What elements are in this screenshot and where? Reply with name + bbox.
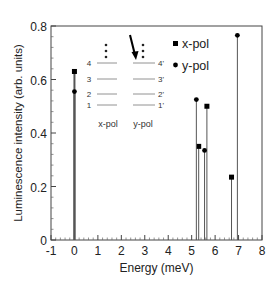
x-tick-label: 7 [235,244,242,258]
y-pol-marker [202,148,207,153]
ellipsis-dot [105,56,108,59]
y-tick-label: 0.2 [30,181,47,195]
ellipsis-dot [105,44,108,47]
y-tick-label: 0 [40,234,47,248]
legend-y-pol-marker [173,63,178,68]
level-label-y: 4' [158,59,164,68]
level-label-y: 2' [158,90,164,99]
x-tick-label: 8 [259,244,266,258]
ellipsis-dot [105,50,108,53]
x-tick-label: 5 [188,244,195,258]
x-tick-label: 1 [95,244,102,258]
x-tick-label: -1 [46,244,57,258]
x-tick-label: 3 [141,244,148,258]
plot-frame [51,26,262,240]
x-tick-label: 0 [71,244,78,258]
legend-y-pol-label: y-pol [182,59,209,73]
ellipsis-dot [142,50,145,53]
chart: -101234567800.20.40.60.8Energy (meV)Lumi… [0,0,278,285]
ellipsis-dot [142,44,145,47]
x-pol-marker [196,144,201,149]
x-tick-label: 6 [212,244,219,258]
level-label-x: 3 [87,75,92,84]
inset-caption-x: x-pol [98,119,118,129]
y-tick-label: 0.8 [30,20,47,34]
x-tick-label: 4 [165,244,172,258]
x-pol-marker [229,175,234,180]
inset-caption-y: y-pol [133,119,153,129]
y-pol-marker [235,33,240,38]
y-tick-label: 0.6 [30,74,47,88]
x-axis-label: Energy (meV) [119,261,193,275]
level-label-x: 1 [87,101,92,110]
level-label-y: 3' [158,75,164,84]
y-axis-label: Luminescence intensity (arb. units) [12,44,24,222]
level-label-x: 2 [87,90,92,99]
x-pol-marker [204,104,209,109]
y-pol-marker [72,89,77,94]
ellipsis-dot [142,56,145,59]
level-label-x: 4 [87,59,92,68]
y-pol-marker [194,97,199,102]
level-label-y: 1' [158,101,164,110]
legend-x-pol-label: x-pol [182,37,209,51]
legend-x-pol-marker [173,41,178,46]
x-pol-marker [72,69,77,74]
arrow-head-icon [132,51,139,60]
y-tick-label: 0.4 [30,127,47,141]
x-tick-label: 2 [118,244,125,258]
